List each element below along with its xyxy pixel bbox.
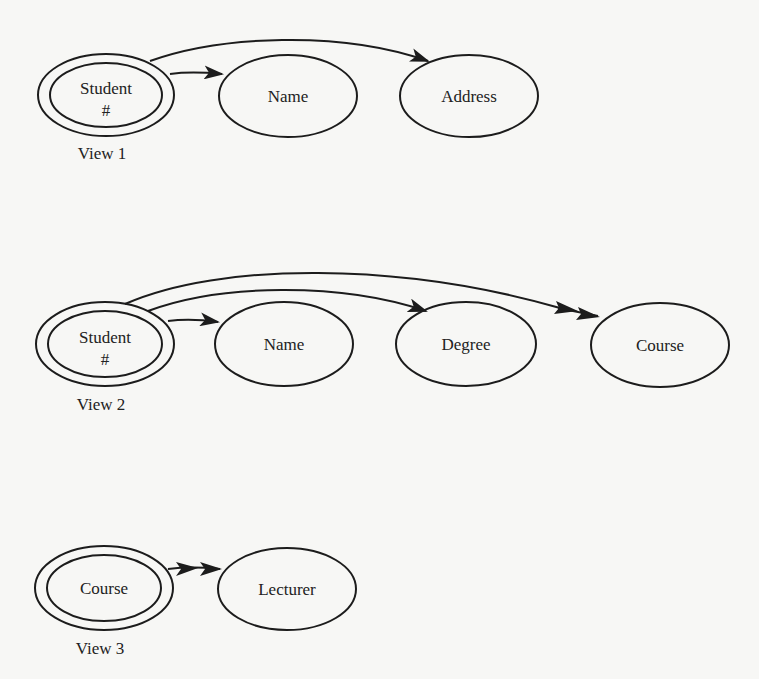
- attribute-label: Lecturer: [258, 580, 316, 599]
- key-label-line1: Student: [80, 79, 132, 98]
- key-node-student-number[interactable]: Student #: [36, 302, 174, 386]
- attribute-node-degree[interactable]: Degree: [396, 302, 536, 386]
- attribute-node-lecturer[interactable]: Lecturer: [218, 548, 356, 630]
- data-view-diagram: Student # Name Address View 1 Student: [0, 0, 759, 679]
- attribute-label: Address: [441, 87, 497, 106]
- key-label-line2: #: [101, 350, 110, 369]
- edge-student-to-course: [125, 273, 560, 308]
- attribute-node-name[interactable]: Name: [215, 302, 353, 386]
- edge-student-to-address: [150, 40, 428, 61]
- view-2: Student # Name Degree Course View 2: [36, 273, 729, 414]
- attribute-label: Course: [636, 336, 684, 355]
- edge-student-to-name: [170, 73, 222, 75]
- key-label-line1: Course: [80, 579, 128, 598]
- key-label-line1: Student: [79, 328, 131, 347]
- attribute-node-address[interactable]: Address: [400, 55, 538, 137]
- view-label: View 2: [77, 395, 126, 414]
- attribute-node-name[interactable]: Name: [219, 55, 357, 137]
- attribute-label: Name: [264, 335, 305, 354]
- attribute-label: Degree: [441, 335, 490, 354]
- edge-student-to-degree: [148, 290, 426, 311]
- key-node-student-number[interactable]: Student #: [38, 54, 174, 136]
- attribute-node-course[interactable]: Course: [591, 303, 729, 387]
- view-3: Course Lecturer View 3: [35, 546, 356, 658]
- view-label: View 3: [76, 639, 125, 658]
- double-arrowhead-2: [200, 562, 222, 576]
- attribute-label: Name: [268, 87, 309, 106]
- view-label: View 1: [78, 144, 127, 163]
- view-1: Student # Name Address View 1: [38, 40, 538, 163]
- key-label-line2: #: [102, 101, 111, 120]
- key-node-course[interactable]: Course: [35, 546, 173, 630]
- edge-student-to-name: [168, 320, 218, 322]
